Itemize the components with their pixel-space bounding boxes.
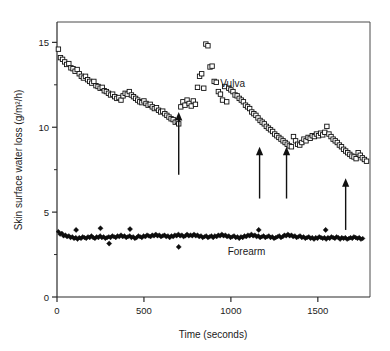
data-point-outlier <box>176 244 181 249</box>
series-vulva <box>56 42 369 164</box>
x-axis-ticks: 050010001500 <box>54 297 328 316</box>
data-series-layer <box>56 42 369 250</box>
data-point <box>364 159 368 163</box>
series-label-forearm: Forearm <box>228 246 266 257</box>
data-point <box>202 86 206 90</box>
data-point <box>75 67 79 71</box>
data-point <box>325 124 329 128</box>
data-point-outlier <box>98 226 103 231</box>
y-tick-label: 5 <box>44 207 49 218</box>
data-point-outlier <box>323 227 328 232</box>
axes <box>57 22 370 297</box>
skin-water-loss-chart: 051015 050010001500 VulvaForearm Time (s… <box>0 0 390 351</box>
figure-container: 051015 050010001500 VulvaForearm Time (s… <box>0 0 390 351</box>
arrow-head <box>175 112 182 121</box>
data-point <box>193 102 197 106</box>
x-axis-title: Time (seconds) <box>179 329 248 340</box>
data-point <box>119 98 123 102</box>
x-tick-label: 0 <box>54 305 59 316</box>
data-point-outlier <box>74 227 79 232</box>
data-point <box>289 145 293 149</box>
arrow-head <box>342 178 349 187</box>
data-point <box>291 134 295 138</box>
plot-frame <box>57 22 370 297</box>
series-label-vulva: Vulva <box>220 78 245 89</box>
data-point <box>206 44 210 48</box>
data-point <box>195 85 199 89</box>
y-axis-title: Skin surface water loss (g/m²/h) <box>13 90 24 231</box>
data-point <box>218 92 222 96</box>
data-point <box>214 80 218 84</box>
y-tick-label: 15 <box>38 37 49 48</box>
data-point <box>92 79 96 83</box>
data-point-outlier <box>107 241 112 246</box>
y-axis-ticks: 051015 <box>38 37 57 303</box>
x-tick-label: 1000 <box>220 305 241 316</box>
data-point <box>210 64 214 68</box>
y-tick-label: 10 <box>38 122 49 133</box>
annotation-arrows <box>175 112 349 230</box>
event-arrow <box>256 147 263 199</box>
data-point <box>67 61 71 65</box>
data-point <box>225 100 229 104</box>
x-tick-label: 500 <box>136 305 152 316</box>
event-arrow <box>342 178 349 230</box>
data-point <box>56 47 60 51</box>
data-point-outlier <box>256 227 261 232</box>
x-tick-label: 1500 <box>307 305 328 316</box>
data-point <box>199 72 203 76</box>
data-point-outlier <box>127 226 132 231</box>
y-tick-label: 0 <box>44 292 49 303</box>
series-forearm <box>56 226 365 250</box>
event-arrow <box>283 147 290 199</box>
arrow-head <box>256 147 263 156</box>
